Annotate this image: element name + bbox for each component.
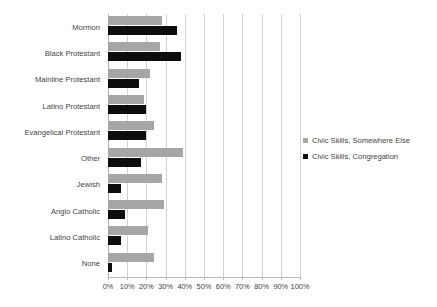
bar-segment: [108, 236, 121, 245]
x-tick-mark: [262, 277, 263, 280]
x-tick-mark: [146, 277, 147, 280]
bar-group: [108, 40, 300, 66]
legend-item-congregation[interactable]: Civic Skills, Congregation: [303, 152, 435, 161]
bar-segment: [108, 52, 181, 61]
x-tick-label: 0%: [103, 282, 114, 291]
bar-segment: [108, 95, 144, 104]
bar-segment: [108, 158, 141, 167]
bar-segment: [108, 148, 183, 157]
category-label: Jewish: [0, 180, 100, 189]
x-tick-mark: [281, 277, 282, 280]
bar-segment: [108, 226, 148, 235]
x-tick-label: 80%: [254, 282, 269, 291]
x-tick-mark: [185, 277, 186, 280]
x-tick-label: 20%: [139, 282, 154, 291]
bar-segment: [108, 26, 177, 35]
bar-segment: [108, 16, 162, 25]
x-tick-label: 60%: [216, 282, 231, 291]
bar-segment: [108, 121, 154, 130]
category-label: Latino Catholic: [0, 233, 100, 242]
legend-label: Civic Skills, Somewhere Else: [312, 136, 410, 145]
bar-group: [108, 224, 300, 250]
legend-item-somewhere-else[interactable]: Civic Skills, Somewhere Else: [303, 136, 435, 145]
x-tick-mark: [204, 277, 205, 280]
x-tick-mark: [300, 277, 301, 280]
bar-group: [108, 119, 300, 145]
x-tick-label: 50%: [197, 282, 212, 291]
bar-group: [108, 251, 300, 277]
plot-area: [108, 14, 300, 277]
bar-segment: [108, 174, 162, 183]
x-tick-label: 100%: [291, 282, 310, 291]
x-tick-label: 30%: [158, 282, 173, 291]
legend-swatch-icon: [303, 138, 308, 143]
chart-legend: Civic Skills, Somewhere Else Civic Skill…: [303, 136, 435, 168]
x-tick-mark: [127, 277, 128, 280]
category-label: Black Protestant: [0, 49, 100, 58]
legend-label: Civic Skills, Congregation: [312, 152, 398, 161]
category-label: Mormon: [0, 23, 100, 32]
bar-segment: [108, 200, 164, 209]
category-label: Mainline Protestant: [0, 75, 100, 84]
x-tick-mark: [108, 277, 109, 280]
bar-segment: [108, 131, 146, 140]
bars: [108, 14, 300, 277]
x-tick-mark: [223, 277, 224, 280]
bar-group: [108, 198, 300, 224]
bar-group: [108, 14, 300, 40]
x-tick-label: 40%: [177, 282, 192, 291]
bar-segment: [108, 210, 125, 219]
bar-group: [108, 67, 300, 93]
category-label: Latino Protestant: [0, 102, 100, 111]
x-tick-mark: [242, 277, 243, 280]
category-axis-labels: MormonBlack ProtestantMainline Protestan…: [0, 14, 104, 277]
category-label: Evangelical Protestant: [0, 128, 100, 137]
bar-segment: [108, 79, 139, 88]
bar-segment: [108, 42, 160, 51]
bar-segment: [108, 69, 150, 78]
bar-chart: MormonBlack ProtestantMainline Protestan…: [0, 0, 437, 307]
x-tick-label: 90%: [273, 282, 288, 291]
category-label: None: [0, 259, 100, 268]
bar-group: [108, 172, 300, 198]
category-label: Other: [0, 154, 100, 163]
x-tick-label: 70%: [235, 282, 250, 291]
x-tick-mark: [166, 277, 167, 280]
bar-segment: [108, 253, 154, 262]
gridline: [300, 14, 301, 277]
bar-segment: [108, 263, 112, 272]
legend-swatch-icon: [303, 154, 308, 159]
bar-group: [108, 93, 300, 119]
bar-segment: [108, 105, 146, 114]
category-label: Anglo Catholic: [0, 207, 100, 216]
bar-segment: [108, 184, 121, 193]
bar-group: [108, 146, 300, 172]
x-tick-label: 10%: [120, 282, 135, 291]
